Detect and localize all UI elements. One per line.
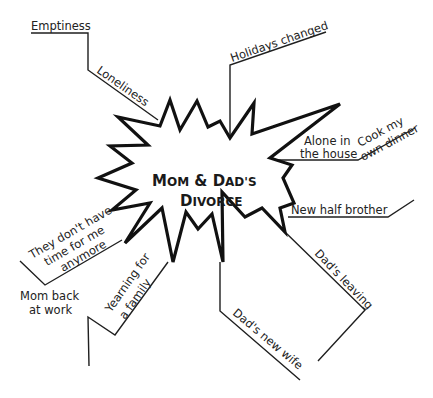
label-new-half-brother: New half brother <box>291 203 388 217</box>
label-loneliness: Loneliness <box>94 63 151 109</box>
diagram-svg: MOM & DAD'S DIVORCE Emptiness Loneliness… <box>0 0 433 398</box>
center-title-line1: MOM & DAD'S <box>152 172 257 190</box>
label-mom-back-line2: at work <box>29 303 72 317</box>
label-dads-new-wife: Dad's new wife <box>230 306 306 373</box>
divorce-web-diagram: MOM & DAD'S DIVORCE Emptiness Loneliness… <box>0 0 433 398</box>
label-emptiness: Emptiness <box>31 19 91 33</box>
label-dads-leaving: Dad's leaving <box>312 246 376 312</box>
label-holidays-changed: Holidays changed <box>228 18 329 65</box>
label-alone-line2: the house <box>300 147 357 161</box>
label-mom-back-line1: Mom back <box>20 289 79 303</box>
center-title-line2: DIVORCE <box>180 192 242 210</box>
branch-line-emptiness <box>31 33 158 120</box>
label-alone-line1: Alone in <box>304 134 351 148</box>
